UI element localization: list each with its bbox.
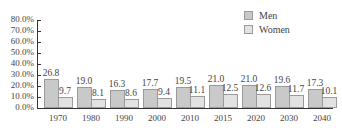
- y-tick-label: 40.0%: [0, 59, 34, 68]
- value-label: 9.4: [151, 87, 177, 97]
- x-tick-label: 1970: [43, 114, 73, 123]
- x-tick-label: 2015: [208, 114, 238, 123]
- bar-chart: 0.0%10.0%20.0%30.0%40.0%50.0%60.0%70.0%8…: [0, 0, 342, 128]
- x-axis-line: [37, 108, 333, 109]
- bar-women-1990: [124, 99, 139, 108]
- legend-item-men: Men: [244, 8, 290, 22]
- x-tick-label: 2040: [307, 114, 337, 123]
- value-label: 8.1: [85, 88, 111, 98]
- y-tick-label: 10.0%: [0, 92, 34, 101]
- x-tick-label: 2020: [241, 114, 271, 123]
- y-tick-label: 50.0%: [0, 48, 34, 57]
- legend-swatch-women: [244, 25, 253, 34]
- x-tick-label: 2030: [274, 114, 304, 123]
- y-axis-line: [37, 20, 38, 109]
- legend-label-men: Men: [259, 10, 277, 21]
- value-label: 11.1: [184, 85, 210, 95]
- legend-label-women: Women: [259, 24, 290, 35]
- x-tick-label: 2000: [142, 114, 172, 123]
- bar-women-2020: [256, 94, 271, 108]
- legend-item-women: Women: [244, 22, 290, 36]
- value-label: 26.8: [38, 68, 64, 78]
- value-label: 10.1: [316, 86, 342, 96]
- legend-swatch-men: [244, 11, 253, 20]
- value-label: 12.5: [217, 83, 243, 93]
- value-label: 19.0: [71, 76, 97, 86]
- bar-women-1980: [91, 99, 106, 108]
- bar-women-2040: [322, 97, 337, 108]
- bar-women-2000: [157, 98, 172, 108]
- bar-women-2030: [289, 95, 304, 108]
- y-tick-label: 60.0%: [0, 37, 34, 46]
- x-tick-label: 1990: [109, 114, 139, 123]
- y-tick-label: 0.0%: [0, 103, 34, 112]
- y-tick-label: 70.0%: [0, 26, 34, 35]
- x-tick-label: 1980: [76, 114, 106, 123]
- value-label: 9.7: [52, 86, 78, 96]
- y-tick-label: 80.0%: [0, 15, 34, 24]
- y-tick-label: 20.0%: [0, 81, 34, 90]
- y-tick-label: 30.0%: [0, 70, 34, 79]
- x-tick-label: 2010: [175, 114, 205, 123]
- bar-women-2010: [190, 96, 205, 108]
- bar-women-1970: [58, 97, 73, 108]
- value-label: 8.6: [118, 88, 144, 98]
- legend: Men Women: [244, 8, 290, 36]
- bar-women-2015: [223, 94, 238, 108]
